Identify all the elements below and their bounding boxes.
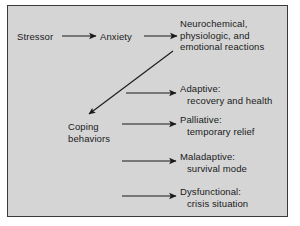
node-anxiety-label: Anxiety (100, 31, 132, 42)
node-reactions-line1: Neurochemical, (180, 18, 247, 29)
node-neurochemical-reactions: Neurochemical, physiologic, and emotiona… (180, 18, 264, 53)
node-reactions-line2: physiologic, and (180, 30, 264, 42)
node-adaptive-line1: Adaptive: (180, 83, 221, 94)
node-stressor: Stressor (17, 31, 53, 43)
node-reactions-line3: emotional reactions (180, 41, 264, 53)
node-maladaptive-line2: survival mode (180, 163, 247, 175)
node-adaptive-line2: recovery and health (180, 95, 272, 107)
node-stressor-label: Stressor (17, 31, 53, 42)
node-palliative: Palliative: temporary relief (180, 114, 255, 137)
node-adaptive: Adaptive: recovery and health (180, 83, 272, 106)
node-maladaptive: Maladaptive: survival mode (180, 151, 247, 174)
node-palliative-line2: temporary relief (180, 126, 255, 138)
node-coping-line2: behaviors (68, 133, 110, 145)
node-dysfunctional-line1: Dysfunctional: (180, 186, 241, 197)
node-maladaptive-line1: Maladaptive: (180, 151, 235, 162)
node-dysfunctional-line2: crisis situation (180, 198, 248, 210)
node-dysfunctional: Dysfunctional: crisis situation (180, 186, 248, 209)
node-anxiety: Anxiety (100, 31, 132, 43)
node-coping-behaviors: Coping behaviors (68, 121, 110, 144)
arrow-reactions-to-coping (89, 51, 173, 114)
node-coping-line1: Coping (68, 121, 99, 132)
flow-diagram-figure: Stressor Anxiety Neurochemical, physiolo… (0, 0, 300, 226)
node-palliative-line1: Palliative: (180, 114, 222, 125)
